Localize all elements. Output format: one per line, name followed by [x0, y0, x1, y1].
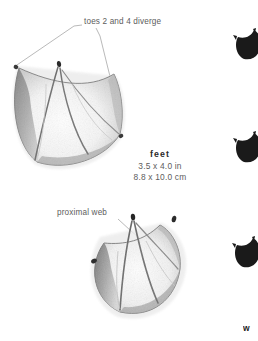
callout-proximal-web: proximal web — [57, 208, 107, 217]
silhouette-body-3 — [235, 238, 258, 267]
track-silhouette-2 — [232, 131, 258, 165]
silhouette-claw-4 — [233, 138, 237, 143]
lower-track-claw-center — [130, 213, 135, 220]
silhouette-body-1 — [236, 30, 258, 59]
measurement-block: feet 3.5 x 4.0 in 8.8 x 10.0 cm — [108, 149, 212, 182]
track-silhouette-1 — [232, 28, 258, 62]
track-silhouette-3 — [231, 236, 258, 270]
upper-track-claw-center — [56, 61, 61, 68]
field-guide-page: toes 2 and 4 diverge proximal web feet 3… — [0, 0, 258, 341]
lower-track-claw-right — [171, 215, 177, 223]
cropped-edge-text: w — [243, 323, 258, 333]
measurement-title: feet — [108, 149, 212, 159]
measurement-imperial: 3.5 x 4.0 in — [108, 161, 212, 172]
silhouette-claw-6 — [232, 243, 236, 248]
lower-webbed-track-illustration — [70, 207, 200, 325]
silhouette-body-2 — [236, 133, 258, 162]
measurement-metric: 8.8 x 10.0 cm — [108, 172, 212, 183]
callout-toes-diverge: toes 2 and 4 diverge — [84, 17, 161, 26]
silhouette-claw-2 — [233, 35, 237, 40]
